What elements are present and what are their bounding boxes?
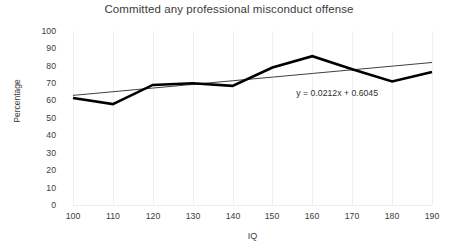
chart-container: Committed any professional misconduct of… [0, 0, 458, 249]
trendline-equation-label: y = 0.0212x + 0.6045 [296, 88, 378, 98]
plot-area [0, 0, 458, 249]
data-series-line [73, 56, 432, 104]
trendline [73, 62, 432, 95]
gridlines [74, 31, 433, 205]
